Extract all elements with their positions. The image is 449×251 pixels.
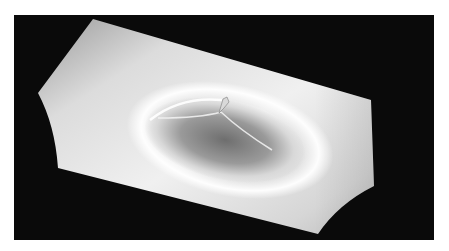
surface-render	[0, 0, 449, 251]
